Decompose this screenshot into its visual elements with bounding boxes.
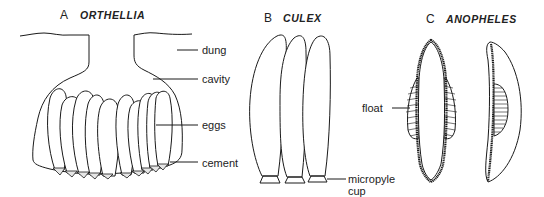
orthellia-eggs [48, 89, 173, 176]
label-cup: cup [348, 185, 366, 197]
panel-a-genus: ORTHELLIA [80, 9, 145, 21]
label-eggs: eggs [202, 119, 226, 131]
label-dung: dung [202, 44, 226, 56]
anopheles-egg-dorsal [406, 40, 457, 182]
dung-surface-right [134, 33, 192, 35]
panel-c-letter: C [426, 12, 435, 26]
label-cement: cement [202, 157, 238, 169]
panel-c-anopheles: C ANOPHELES [362, 12, 521, 182]
panel-a-orthellia: A ORTHELLIA [20, 8, 238, 179]
micropyle-cups [260, 176, 327, 183]
egg-diagram: A ORTHELLIA [0, 0, 544, 197]
anopheles-egg-lateral [486, 42, 522, 182]
panel-a-letter: A [60, 8, 68, 22]
label-float: float [362, 102, 383, 114]
label-micropyle: micropyle [348, 173, 395, 185]
dung-surface-left [20, 33, 89, 36]
culex-eggs [250, 35, 331, 177]
panel-b-genus: CULEX [283, 12, 322, 24]
panel-b-letter: B [264, 11, 272, 25]
label-cavity: cavity [202, 73, 231, 85]
panel-c-genus: ANOPHELES [445, 13, 517, 25]
